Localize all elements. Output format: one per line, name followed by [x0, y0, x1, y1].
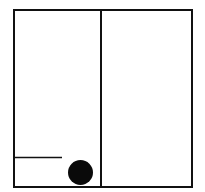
outer-box [14, 10, 192, 187]
diagram-canvas [0, 0, 205, 192]
ball-icon [68, 160, 93, 185]
